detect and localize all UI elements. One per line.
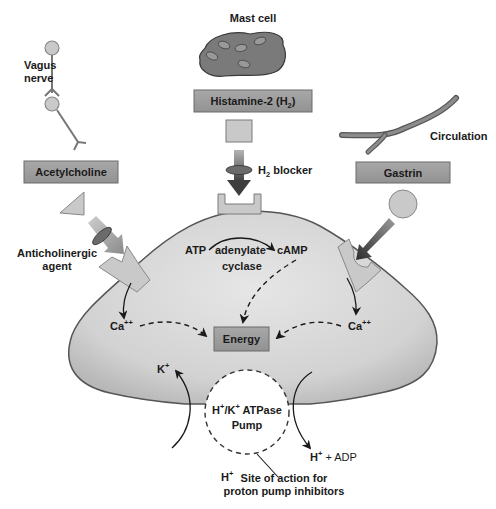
gastrin-label: Gastrin — [384, 167, 423, 179]
vagus-nerve-label: Vagusnerve — [24, 59, 56, 84]
gastric-acid-secretion-diagram: Mast cell Histamine-2 (H2) H2 blocker Va… — [0, 0, 496, 509]
vagus-nerve — [45, 41, 86, 150]
energy-label: Energy — [223, 333, 261, 345]
acetylcholine-label: Acetylcholine — [35, 166, 107, 178]
anticholinergic-label: Anticholinergicagent — [17, 247, 97, 272]
atp-label: ATP — [185, 244, 206, 256]
h2-blocker-label: H2 blocker — [258, 164, 313, 179]
mast-cell — [199, 32, 285, 76]
h2-blocker-disc — [226, 166, 252, 175]
proton-lumen-label: H+ — [221, 469, 234, 483]
acetylcholine-ligand — [60, 192, 84, 215]
gastrin-arrow — [356, 218, 395, 260]
h2-receptor — [218, 194, 261, 214]
histamine-ligand — [226, 120, 252, 142]
camp-label: cAMP — [277, 244, 308, 256]
pump-label-line2: Pump — [232, 419, 263, 431]
cyclase-label: cyclase — [222, 260, 262, 272]
site-of-action-label: Site of action forproton pump inhibitors — [224, 472, 345, 497]
circulation-label: Circulation — [430, 130, 488, 142]
adenylate-label: adenylate — [215, 244, 266, 256]
mast-cell-label: Mast cell — [230, 12, 276, 24]
blood-vessel — [342, 98, 456, 152]
gastrin-ligand — [389, 190, 417, 218]
proton-adp-label: H+ + ADP — [310, 449, 357, 463]
